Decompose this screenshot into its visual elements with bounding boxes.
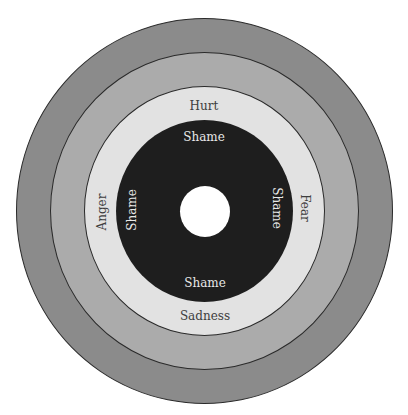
label-shame-bottom: Shame bbox=[184, 277, 226, 289]
label-shame-right: Shame bbox=[271, 187, 283, 229]
label-shame-left: Shame bbox=[126, 189, 138, 231]
label-sadness: Sadness bbox=[180, 310, 230, 322]
label-hurt: Hurt bbox=[190, 100, 219, 112]
label-shame-top: Shame bbox=[183, 131, 225, 143]
label-fear: Fear bbox=[299, 194, 311, 222]
concentric-circles-diagram: Hurt Anger Fear Sadness Shame Shame Sham… bbox=[0, 0, 408, 415]
center-hole bbox=[180, 186, 230, 237]
label-anger: Anger bbox=[96, 194, 108, 231]
